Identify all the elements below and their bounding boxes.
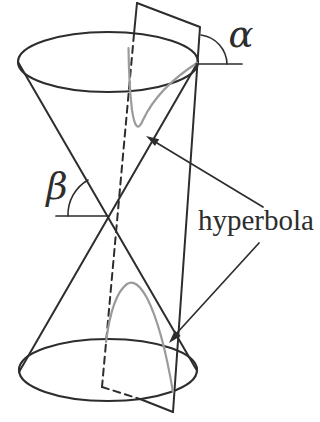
hyperbola-annotation: hyperbola xyxy=(146,136,314,343)
upper-branch-arrow xyxy=(146,136,263,207)
hyperbola-lower-branch-curve xyxy=(106,283,173,392)
plane-top-and-right-edges xyxy=(137,3,200,412)
conic-section-figure: α β hyperbola xyxy=(0,0,320,422)
beta-angle-marking: β xyxy=(44,165,108,216)
double-cone-hyperbola-diagram: α β hyperbola xyxy=(0,0,320,422)
plane-left-edge-visible-tip xyxy=(134,3,137,34)
hyperbola-label: hyperbola xyxy=(198,204,314,236)
beta-angle-arc xyxy=(68,180,88,216)
beta-label: β xyxy=(44,165,67,208)
upper-arrow-line xyxy=(157,143,263,207)
hyperbola-upper-branch-curve xyxy=(129,48,198,127)
lower-arrow-line xyxy=(176,243,259,334)
plane-bottom-edge-hidden-dashed xyxy=(102,387,140,399)
hyperbola-curves xyxy=(106,48,197,392)
alpha-label: α xyxy=(229,13,254,56)
upper-arrowhead-icon xyxy=(146,136,159,146)
lower-branch-arrow xyxy=(169,243,259,343)
alpha-angle-arc xyxy=(201,35,227,64)
alpha-angle-marking: α xyxy=(196,13,254,64)
plane-bottom-edge-visible xyxy=(140,399,173,412)
lower-cone-base-ellipse xyxy=(19,339,197,401)
